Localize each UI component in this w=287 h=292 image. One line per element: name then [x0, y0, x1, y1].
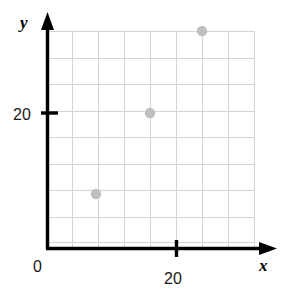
x-axis-arrow-icon: [259, 242, 277, 255]
x-axis-label: x: [258, 256, 268, 275]
grid-lines: [47, 31, 255, 248]
y-axis-tick-label-20: 20: [13, 106, 31, 123]
plot-canvas: y x 0 20 20: [0, 0, 287, 292]
y-axis-label: y: [18, 13, 28, 32]
origin-label: 0: [33, 258, 42, 275]
x-axis-tick-label-20: 20: [164, 270, 182, 287]
data-point-marker: [145, 108, 155, 118]
data-points: [91, 26, 207, 199]
data-point-marker: [91, 189, 101, 199]
y-axis-arrow-icon: [41, 12, 54, 30]
scatter-plot-figure: y x 0 20 20: [0, 0, 287, 292]
tick-marks: [41, 113, 177, 257]
data-point-marker: [197, 26, 207, 36]
axis-lines: [46, 22, 266, 249]
